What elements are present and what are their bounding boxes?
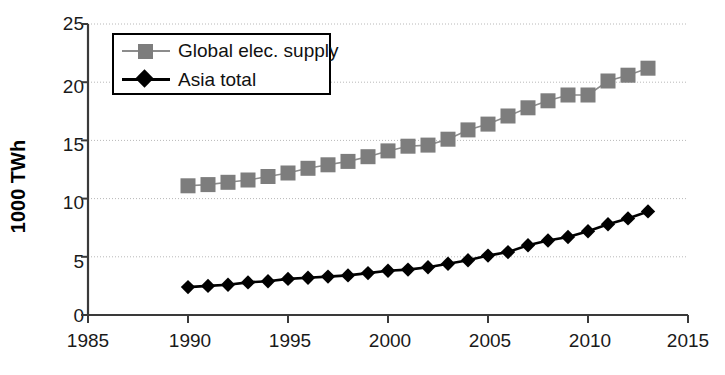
data-point: [221, 175, 236, 190]
data-point: [281, 272, 295, 286]
data-point: [621, 211, 635, 225]
data-point: [321, 157, 336, 172]
legend-entry-asia: Asia total: [114, 65, 329, 94]
data-point: [361, 266, 375, 280]
data-point: [481, 117, 496, 132]
data-point: [541, 93, 556, 108]
series-line: [188, 211, 648, 287]
data-point: [601, 74, 616, 89]
data-point: [381, 143, 396, 158]
data-point: [621, 68, 636, 83]
legend: Global elec. supply Asia total: [112, 33, 331, 95]
data-point: [441, 257, 455, 271]
data-point: [301, 161, 316, 176]
square-marker-icon: [120, 39, 172, 63]
data-point: [181, 178, 196, 193]
data-point: [201, 177, 216, 192]
data-point: [641, 204, 655, 218]
data-point: [281, 166, 296, 181]
data-point: [461, 253, 475, 267]
data-point: [341, 154, 356, 169]
data-point: [461, 122, 476, 137]
data-point: [401, 139, 416, 154]
data-point: [381, 264, 395, 278]
data-point: [361, 149, 376, 164]
data-point: [581, 224, 595, 238]
data-point: [561, 88, 576, 103]
data-point: [541, 233, 555, 247]
diamond-marker-icon: [120, 68, 172, 92]
data-point: [341, 268, 355, 282]
chart-container: 1000 TWh 0 5 10 15 20 25 1985 1990 1995 …: [0, 0, 725, 375]
series-asia-total: [181, 204, 655, 294]
data-point: [501, 109, 516, 124]
data-point: [421, 260, 435, 274]
data-point: [601, 217, 615, 231]
data-point: [441, 132, 456, 147]
data-point: [221, 278, 235, 292]
plot-area: [0, 0, 725, 375]
legend-label-asia: Asia total: [178, 69, 256, 91]
data-point: [521, 238, 535, 252]
legend-label-global: Global elec. supply: [178, 40, 339, 62]
data-point: [581, 88, 596, 103]
data-point: [521, 100, 536, 115]
data-point: [561, 230, 575, 244]
data-point: [261, 274, 275, 288]
data-point: [241, 275, 255, 289]
data-point: [481, 248, 495, 262]
series-layer: [181, 61, 656, 295]
data-point: [421, 138, 436, 153]
data-point: [261, 169, 276, 184]
data-point: [181, 280, 195, 294]
data-point: [321, 269, 335, 283]
data-point: [201, 279, 215, 293]
data-point: [641, 61, 656, 76]
data-point: [301, 271, 315, 285]
data-point: [241, 173, 256, 188]
legend-entry-global: Global elec. supply: [114, 36, 329, 65]
data-point: [401, 262, 415, 276]
